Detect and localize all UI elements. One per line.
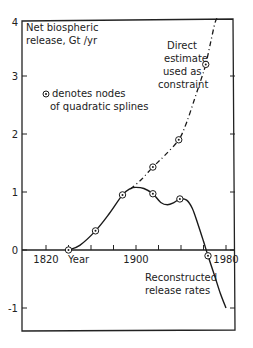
x-tick-label: 1820 <box>33 254 58 265</box>
x-tick-label: 1980 <box>213 254 238 265</box>
y-axis-label-line1: Net biospheric <box>26 22 98 33</box>
y-tick-label: 4 <box>12 17 18 28</box>
spline-node-dot <box>152 166 154 168</box>
legend-note-line1: denotes nodes <box>52 88 126 99</box>
spline-node-icon <box>92 228 98 234</box>
spline-node-dot <box>122 194 124 196</box>
x-axis-label: Year <box>67 254 90 265</box>
annotation-direct-line2: estimate <box>164 53 208 64</box>
x-tick-label: 1900 <box>123 254 148 265</box>
legend-node-symbol-icon <box>43 91 49 97</box>
spline-node-dot <box>178 139 180 141</box>
annotation-direct-line4: constraint <box>158 79 208 90</box>
chart: 182019001980-101234 Net biospheric relea… <box>0 0 253 348</box>
annotation-reconstructed-line1: Reconstructed <box>145 272 217 283</box>
spline-node-icon <box>205 253 211 259</box>
spline-node-icon <box>150 164 156 170</box>
spline-node-icon <box>176 137 182 143</box>
y-tick-label: -1 <box>8 303 18 314</box>
y-tick-label: 3 <box>12 71 18 82</box>
spline-node-dot <box>68 249 70 251</box>
y-axis-label-line2: release, Gt /yr <box>26 35 98 46</box>
annotation-reconstructed-line2: release rates <box>145 285 210 296</box>
spline-node-dot <box>95 230 97 232</box>
y-tick-label: 2 <box>12 129 18 140</box>
spline-node-icon <box>65 247 71 253</box>
legend-note-line2: of quadratic splines <box>50 101 148 112</box>
spline-node-icon <box>177 196 183 202</box>
y-tick-label: 1 <box>12 187 18 198</box>
spline-node-icon <box>119 192 125 198</box>
spline-node-icon <box>150 191 156 197</box>
annotation-direct-line3: used as <box>163 66 202 77</box>
y-tick-label: 0 <box>12 245 18 256</box>
spline-node-dot <box>179 198 181 200</box>
annotation-direct-line1: Direct <box>167 40 197 51</box>
spline-node-dot <box>152 193 154 195</box>
spline-node-dot <box>207 255 209 257</box>
